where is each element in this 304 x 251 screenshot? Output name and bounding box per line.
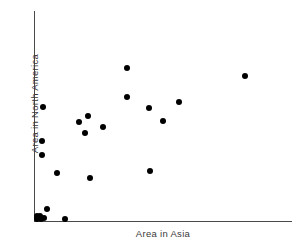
data-point [242,73,248,79]
data-point [100,124,106,130]
data-point [39,152,45,158]
data-point [76,119,82,125]
x-axis-label: Area in Asia [34,228,292,239]
data-point [147,168,153,174]
data-point [124,65,130,71]
data-point [62,216,68,222]
plot-area [0,0,304,251]
data-point [160,118,166,124]
data-point [44,206,50,212]
data-point [82,130,88,136]
y-axis-label: Area in North America [29,24,40,184]
data-point [146,105,152,111]
scatter-plot-figure: Area in Asia Area in North America [0,0,304,251]
data-point [124,94,130,100]
data-point [41,215,47,221]
x-axis-line [34,221,292,222]
data-point [40,104,46,110]
data-point [39,138,45,144]
data-point [87,175,93,181]
data-point [176,99,182,105]
data-point [85,113,91,119]
data-point [54,170,60,176]
